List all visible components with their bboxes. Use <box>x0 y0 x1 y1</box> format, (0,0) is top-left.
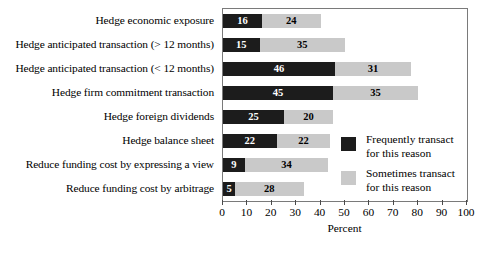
bar-value-label: 28 <box>235 182 303 196</box>
axis-tick <box>417 200 418 205</box>
axis-tick <box>368 200 369 205</box>
bar-segment-frequently: 15 <box>223 38 260 52</box>
legend-swatch-dark <box>341 137 356 151</box>
bar-value-label: 34 <box>245 158 328 172</box>
axis-tick <box>344 200 345 205</box>
legend-item: Frequently transact for this reason <box>341 134 463 164</box>
category-label: Hedge anticipated transaction (< 12 mont… <box>0 56 214 80</box>
category-label: Reduce funding cost by expressing a view <box>0 152 214 176</box>
legend-item: Sometimes transact for this reason <box>341 168 463 198</box>
x-axis-title: Percent <box>222 222 467 234</box>
bar-value-label: 15 <box>223 38 260 52</box>
bar-value-label: 31 <box>335 62 411 76</box>
bar-value-label: 9 <box>223 158 245 172</box>
axis-tick <box>442 200 443 205</box>
bar-segment-frequently: 9 <box>223 158 245 172</box>
bar-value-label: 46 <box>223 62 335 76</box>
bar-segment-sometimes: 34 <box>245 158 328 172</box>
category-label: Hedge balance sheet <box>0 128 214 152</box>
axis-tick <box>466 200 467 205</box>
bar-segment-sometimes: 28 <box>235 182 303 196</box>
category-label: Hedge firm commitment transaction <box>0 80 214 104</box>
legend-label: Sometimes transact for this reason <box>366 166 455 194</box>
bar-value-label: 5 <box>223 182 235 196</box>
chart-legend: Frequently transact for this reasonSomet… <box>341 134 463 202</box>
category-label: Hedge foreign dividends <box>0 104 214 128</box>
bar-segment-frequently: 25 <box>223 110 284 124</box>
axis-tick <box>246 200 247 205</box>
bar-value-label: 22 <box>277 134 331 148</box>
bar-value-label: 16 <box>223 14 262 28</box>
bar-row: 1624 <box>223 9 467 33</box>
bar-segment-frequently: 16 <box>223 14 262 28</box>
axis-tick <box>393 200 394 205</box>
bar-value-label: 35 <box>260 38 345 52</box>
legend-label: Frequently transact for this reason <box>366 132 454 160</box>
category-label-column: Hedge economic exposureHedge anticipated… <box>0 8 218 200</box>
bar-segment-sometimes: 24 <box>262 14 321 28</box>
bar-value-label: 24 <box>262 14 321 28</box>
axis-tick <box>295 200 296 205</box>
bar-segment-sometimes: 35 <box>333 86 418 100</box>
bar-segment-frequently: 45 <box>223 86 333 100</box>
bar-row: 1535 <box>223 33 467 57</box>
x-axis: 0102030405060708090100 <box>222 200 467 240</box>
bar-value-label: 22 <box>223 134 277 148</box>
bar-segment-sometimes: 35 <box>260 38 345 52</box>
category-label: Reduce funding cost by arbitrage <box>0 176 214 200</box>
bar-segment-frequently: 22 <box>223 134 277 148</box>
bar-segment-frequently: 5 <box>223 182 235 196</box>
bar-value-label: 35 <box>333 86 418 100</box>
bar-value-label: 25 <box>223 110 284 124</box>
bar-row: 2520 <box>223 105 467 129</box>
bar-segment-sometimes: 20 <box>284 110 333 124</box>
category-label: Hedge economic exposure <box>0 8 214 32</box>
bar-segment-sometimes: 31 <box>335 62 411 76</box>
axis-tick <box>271 200 272 205</box>
bar-row: 4631 <box>223 57 467 81</box>
bar-segment-sometimes: 22 <box>277 134 331 148</box>
axis-tick <box>320 200 321 205</box>
axis-tick-label: 100 <box>451 206 479 218</box>
axis-tick <box>222 200 223 205</box>
bar-value-label: 45 <box>223 86 333 100</box>
bar-segment-frequently: 46 <box>223 62 335 76</box>
bar-row: 4535 <box>223 81 467 105</box>
category-label: Hedge anticipated transaction (> 12 mont… <box>0 32 214 56</box>
bar-value-label: 20 <box>284 110 333 124</box>
legend-swatch-light <box>341 171 356 185</box>
